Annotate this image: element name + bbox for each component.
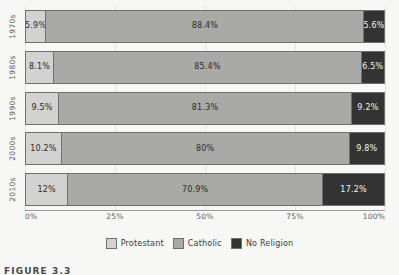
bar-segment-label: 12% [37,186,55,194]
chart-plot-area: 5.9%88.4%5.6%8.1%85.4%6.5%9.5%81.3%9.2%1… [25,6,385,210]
bar-segment: 88.4% [46,10,364,43]
x-axis-tick-label: 50% [196,212,213,221]
y-axis-tick-2010s: 2010s [0,173,24,206]
bar-segment-label: 17.2% [340,186,366,194]
bar-segment: 9.2% [352,92,385,125]
bar-row: 8.1%85.4%6.5% [25,51,385,84]
bar-segment-label: 70.9% [182,186,208,194]
bar-segment: 17.2% [323,173,385,206]
legend-item-protestant[interactable]: Protestant [106,238,164,249]
bar-row: 5.9%88.4%5.6% [25,10,385,43]
bar-segment-label: 88.4% [192,22,218,30]
legend-swatch-icon [106,238,117,249]
legend-item-catholic[interactable]: Catholic [173,238,222,249]
y-axis-tick-2000s: 2000s [0,132,24,165]
bar-segment: 5.6% [364,10,384,43]
bar-segment: 9.8% [350,132,385,165]
bar-row: 9.5%81.3%9.2% [25,92,385,125]
bar-segment: 70.9% [68,173,323,206]
bar-segment-label: 8.1% [29,63,50,71]
y-axis-tick-1980s: 1980s [0,51,24,84]
bar-segment-label: 5.6% [364,22,384,30]
bar-segment-label: 9.5% [32,104,53,112]
chart-legend: ProtestantCatholicNo Religion [0,238,399,249]
y-axis-tick-label: 1980s [0,55,29,80]
bar-segment: 9.5% [25,92,59,125]
bar-row: 12%70.9%17.2% [25,173,385,206]
y-axis-tick-1990s: 1990s [0,92,24,125]
bar-segment: 12% [25,173,68,206]
bar-segment: 6.5% [362,51,385,84]
bar-segment-label: 10.2% [30,145,56,153]
x-axis-tick-label: 0% [25,212,37,221]
figure-container: 5.9%88.4%5.6%8.1%85.4%6.5%9.5%81.3%9.2%1… [0,0,399,275]
y-axis-tick-label: 1990s [0,96,29,121]
legend-label: Protestant [121,239,164,248]
figure-caption: FIGURE 3.3 [4,266,71,275]
x-axis-line [25,210,385,211]
y-axis-tick-label: 1970s [0,14,29,39]
legend-item-no-religion[interactable]: No Religion [231,238,293,249]
bar-segment-label: 85.4% [194,63,220,71]
y-axis-tick-label: 2000s [0,137,29,162]
bar-segment: 80% [62,132,350,165]
bar-segment-label: 6.5% [362,63,383,71]
bar-segment-label: 9.8% [356,145,377,153]
x-axis-tick-label: 25% [106,212,123,221]
bar-row: 10.2%80%9.8% [25,132,385,165]
bar-segment-label: 80% [196,145,214,153]
bar-segment-label: 81.3% [192,104,218,112]
legend-label: Catholic [188,239,222,248]
bar-segment: 10.2% [25,132,62,165]
y-axis-tick-label: 2010s [0,177,29,202]
bar-segment: 81.3% [59,92,352,125]
legend-label: No Religion [246,239,293,248]
y-axis-tick-1970s: 1970s [0,10,24,43]
legend-swatch-icon [231,238,242,249]
gridline [385,6,386,210]
bar-segment: 85.4% [54,51,361,84]
x-axis-tick-label: 75% [286,212,303,221]
x-axis-tick-label: 100% [363,212,385,221]
legend-swatch-icon [173,238,184,249]
bar-segment-label: 9.2% [357,104,378,112]
bar-segment: 8.1% [25,51,54,84]
